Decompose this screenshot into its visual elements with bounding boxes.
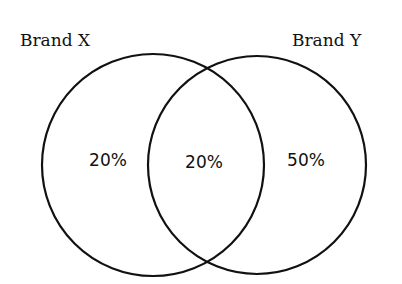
region-label-overlap: 20% [185,152,223,172]
venn-diagram: Brand X Brand Y 20% 20% 50% [0,0,402,284]
circle-brand-y [148,56,366,274]
set-label-brand-x: Brand X [20,30,91,50]
circle-brand-x [42,54,264,276]
set-label-brand-y: Brand Y [292,30,362,50]
region-label-brand-y-only: 50% [287,150,325,170]
region-label-brand-x-only: 20% [89,150,127,170]
